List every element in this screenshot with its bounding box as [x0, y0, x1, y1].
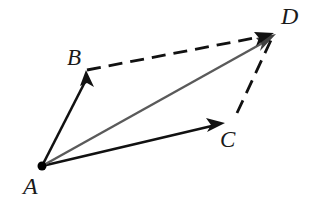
- vector-bd-shaft: [87, 36, 265, 70]
- point-label-a: A: [23, 174, 38, 198]
- point-a-dot: [38, 162, 47, 171]
- point-label-b: B: [67, 46, 81, 69]
- vector-diagram-canvas: [0, 0, 320, 201]
- point-label-d: D: [281, 4, 298, 28]
- vector-ab-arrowhead: [80, 70, 94, 87]
- vector-parallelogram-figure: A B C D: [0, 0, 320, 201]
- vector-ac-shaft: [42, 125, 216, 166]
- vector-ac: [42, 118, 225, 166]
- vector-cd-shaft: [237, 38, 272, 113]
- vector-cd: [237, 38, 272, 113]
- point-label-c: C: [220, 128, 235, 151]
